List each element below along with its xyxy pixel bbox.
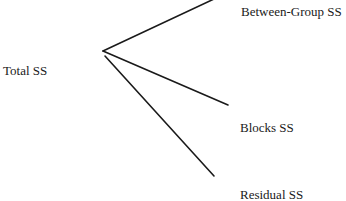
branch-label-blocks-ss: Blocks SS [240, 120, 294, 135]
branch-line-residual [105, 56, 214, 176]
ss-partition-diagram: Total SS Between-Group SS Blocks SS Resi… [0, 0, 346, 201]
branch-lines [0, 0, 346, 201]
branch-label-between-group-ss: Between-Group SS [241, 4, 342, 19]
branch-label-residual-ss: Residual SS [240, 187, 303, 201]
branch-line-between-group [103, 0, 214, 51]
root-label-total-ss: Total SS [3, 63, 47, 78]
branch-line-blocks [103, 51, 228, 105]
